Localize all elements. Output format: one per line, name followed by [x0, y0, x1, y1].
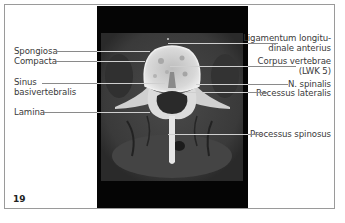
- leader-line-n-spinalis-inner: [196, 84, 248, 85]
- leader-line-corpus: [248, 66, 296, 67]
- leader-line-n-spinalis: [248, 84, 288, 85]
- leader-line-corpus-inner: [170, 66, 248, 67]
- leader-line-spongiosa-inner: [97, 51, 150, 52]
- label-sinus-line1: Sinus: [14, 77, 37, 87]
- leader-line-sinus: [42, 83, 97, 84]
- label-sinus-line2: basivertebralis: [14, 87, 76, 97]
- label-recessus: Recessus lateralis: [256, 88, 331, 98]
- label-ligamentum-line1: Ligamentum longitu-: [243, 33, 331, 43]
- label-ligamentum-line2: dinale anterius: [268, 43, 331, 53]
- leader-line-ligamentum-inner: [168, 43, 248, 44]
- leader-line-lamina: [44, 112, 97, 113]
- ct-scan-graphic: [97, 6, 248, 208]
- label-lamina: Lamina: [14, 107, 45, 117]
- label-compacta: Compacta: [14, 56, 57, 66]
- label-corpus-line2: (LWK 5): [299, 66, 331, 76]
- figure-number: 19: [13, 194, 26, 204]
- label-spongiosa: Spongiosa: [14, 46, 58, 56]
- label-corpus-line1: Corpus vertebrae: [258, 56, 331, 66]
- leader-line-processus-inner: [168, 134, 248, 135]
- ct-scan-image: [97, 6, 248, 208]
- leader-line-processus: [248, 134, 262, 135]
- leader-line-ligamentum: [248, 43, 278, 44]
- label-processus: Processus spinosus: [250, 129, 331, 139]
- leader-line-compacta-inner: [97, 61, 145, 62]
- leader-line-recessus-inner: [185, 92, 248, 93]
- leader-line-lamina-inner: [97, 112, 150, 113]
- leader-line-sinus-inner: [97, 83, 165, 84]
- leader-line-spongiosa: [56, 51, 97, 52]
- leader-line-compacta: [56, 61, 97, 62]
- leader-line-recessus: [248, 92, 268, 93]
